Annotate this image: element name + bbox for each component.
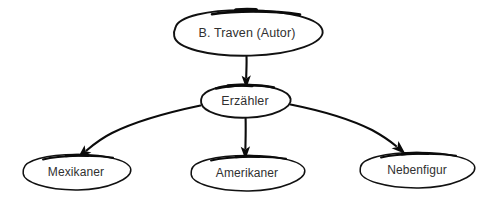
- node-mexikaner-top-thick-accent: [66, 155, 88, 156]
- node-nebenfigur-top-thick-accent: [402, 153, 428, 154]
- node-autor-label: B. Traven (Autor): [199, 26, 296, 40]
- node-nebenfigur-label: Nebenfigur: [387, 163, 447, 177]
- node-mexikaner-label: Mexikaner: [48, 165, 104, 179]
- node-erzaehler[interactable]: Erzähler: [201, 85, 291, 118]
- graph-svg: B. Traven (Autor) Erzähler Mexikaner Ame…: [0, 0, 488, 200]
- node-autor-top-thick-accent: [236, 10, 256, 11]
- node-erzaehler-label: Erzähler: [221, 94, 268, 108]
- node-erzaehler-top-thick-accent: [228, 85, 252, 86]
- node-amerikaner-top-thick-accent: [236, 156, 259, 157]
- node-amerikaner-label: Amerikaner: [216, 166, 278, 180]
- diagram-canvas: B. Traven (Autor) Erzähler Mexikaner Ame…: [0, 0, 488, 200]
- node-autor[interactable]: B. Traven (Autor): [174, 10, 323, 56]
